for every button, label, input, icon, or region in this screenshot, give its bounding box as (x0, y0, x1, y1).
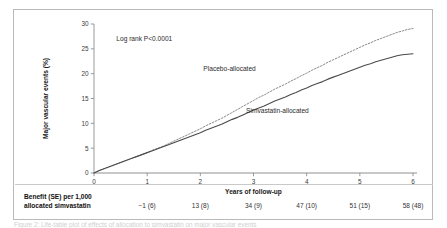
benefit-value-year-3: 34 (9) (245, 202, 262, 209)
benefit-value-year-6: 58 (48) (403, 202, 424, 209)
x-axis-title: Years of follow-up (225, 188, 282, 196)
y-tick-label: 0 (85, 169, 89, 176)
series-line-placebo (94, 28, 413, 173)
benefit-value-year-5: 51 (15) (350, 202, 371, 209)
benefit-value-year-4: 47 (10) (296, 202, 317, 209)
series-label-placebo: Placebo-allocated (203, 65, 256, 72)
y-tick-label: 30 (81, 20, 89, 27)
kaplan-meier-plot: 0510152025300123456Placebo-allocatedSimv… (14, 10, 434, 221)
y-tick-label: 25 (81, 45, 89, 52)
figure-caption: Figure 2: Life-table plot of effects of … (14, 221, 434, 228)
log-rank-annotation: Log rank P<0.0001 (116, 35, 172, 43)
y-tick-label: 20 (81, 70, 89, 77)
benefit-values-row: −1 (6)13 (8)34 (9)47 (10)51 (15)58 (48) (14, 202, 434, 216)
benefit-label-line1: Benefit (SE) per 1,000 (24, 192, 149, 201)
y-axis-title: Major vascular events (%) (42, 58, 50, 139)
footer-divider (15, 184, 433, 185)
figure-frame: 0510152025300123456Placebo-allocatedSimv… (13, 9, 433, 220)
series-label-simvastatin: Simvastatin-allocated (246, 107, 309, 114)
y-tick-label: 5 (85, 145, 89, 152)
plot-area: 0510152025300123456Placebo-allocatedSimv… (14, 10, 434, 221)
figure-page: 0510152025300123456Placebo-allocatedSimv… (0, 0, 447, 228)
y-tick-label: 15 (81, 95, 89, 102)
benefit-value-year-2: 13 (8) (192, 202, 209, 209)
y-tick-label: 10 (81, 120, 89, 127)
benefit-value-year-1: −1 (6) (139, 202, 156, 209)
